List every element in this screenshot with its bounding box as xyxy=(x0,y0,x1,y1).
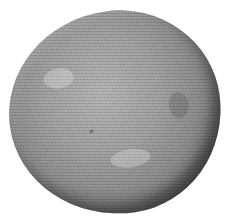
stone-illustration xyxy=(0,0,225,222)
stone-texture xyxy=(0,0,225,222)
